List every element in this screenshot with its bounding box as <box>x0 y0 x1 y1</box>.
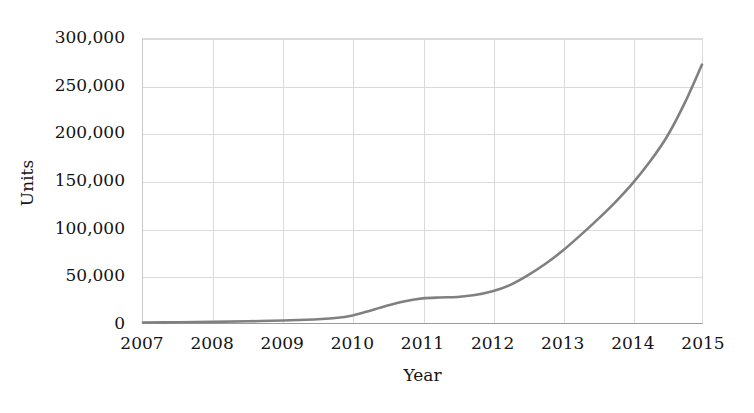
y-axis-title: Units <box>17 133 37 233</box>
line-chart-figure: 050,000100,000150,000200,000250,000300,0… <box>0 0 754 413</box>
y-axis-tick-label: 300,000 <box>0 29 134 46</box>
plot-area <box>142 38 703 324</box>
x-axis-title: Year <box>142 365 703 385</box>
y-axis-tick-label: 0 <box>0 315 134 332</box>
x-axis-tick-label: 2011 <box>383 333 463 353</box>
y-axis-tick-label: 50,000 <box>0 267 134 284</box>
x-axis-tick-label: 2012 <box>453 333 533 353</box>
x-axis-tick-label: 2007 <box>102 333 182 353</box>
x-axis-tick-label: 2008 <box>172 333 252 353</box>
x-axis-tick-label: 2009 <box>242 333 322 353</box>
x-axis-tick-label: 2013 <box>523 333 603 353</box>
y-axis-tick-label: 250,000 <box>0 77 134 94</box>
series-layer <box>143 39 702 323</box>
x-axis-tick-label: 2015 <box>663 333 743 353</box>
x-axis-tick-label: 2014 <box>593 333 673 353</box>
series-line-units <box>143 65 702 323</box>
x-axis-tick-label: 2010 <box>312 333 392 353</box>
x-axis-tick-labels: 200720082009201020112012201320142015 <box>0 333 754 357</box>
